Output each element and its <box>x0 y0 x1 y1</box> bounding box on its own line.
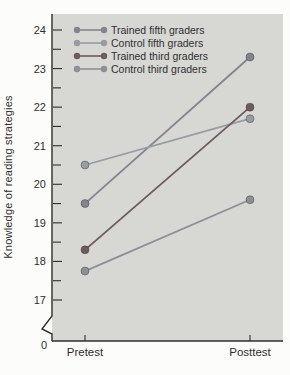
legend-label: Control fifth graders <box>111 37 203 49</box>
y-tick-label: 21 <box>34 140 46 152</box>
y-tick-label: 22 <box>34 101 46 113</box>
y-tick-label: 20 <box>34 178 46 190</box>
y-tick-label: 24 <box>34 24 46 36</box>
legend-marker <box>101 27 107 33</box>
data-point <box>246 103 254 111</box>
legend-label: Trained third graders <box>111 50 208 62</box>
legend-marker <box>101 53 107 59</box>
legend-marker <box>101 40 107 46</box>
data-point <box>246 115 254 123</box>
legend-marker <box>74 66 80 72</box>
origin-label: 0 <box>41 339 47 351</box>
legend-label: Trained fifth graders <box>111 24 205 36</box>
data-point <box>246 196 254 204</box>
y-tick-label: 23 <box>34 63 46 75</box>
legend-marker <box>74 53 80 59</box>
y-tick-label: 18 <box>34 255 46 267</box>
legend-marker <box>101 66 107 72</box>
data-point <box>81 246 89 254</box>
data-point <box>81 267 89 275</box>
legend-marker <box>74 27 80 33</box>
y-tick-label: 19 <box>34 217 46 229</box>
figure: 2423222120191817 PretestPosttest Trained… <box>0 0 290 375</box>
y-tick-label: 17 <box>34 294 46 306</box>
data-point <box>81 161 89 169</box>
y-axis-title: Knowledge of reading strategies <box>2 95 14 259</box>
line-chart: 2423222120191817 PretestPosttest Trained… <box>0 0 290 375</box>
legend-marker <box>74 40 80 46</box>
x-tick-label: Pretest <box>67 346 104 358</box>
x-tick-label: Posttest <box>229 346 271 358</box>
data-point <box>81 200 89 208</box>
legend-label: Control third graders <box>111 63 207 75</box>
data-point <box>246 53 254 61</box>
